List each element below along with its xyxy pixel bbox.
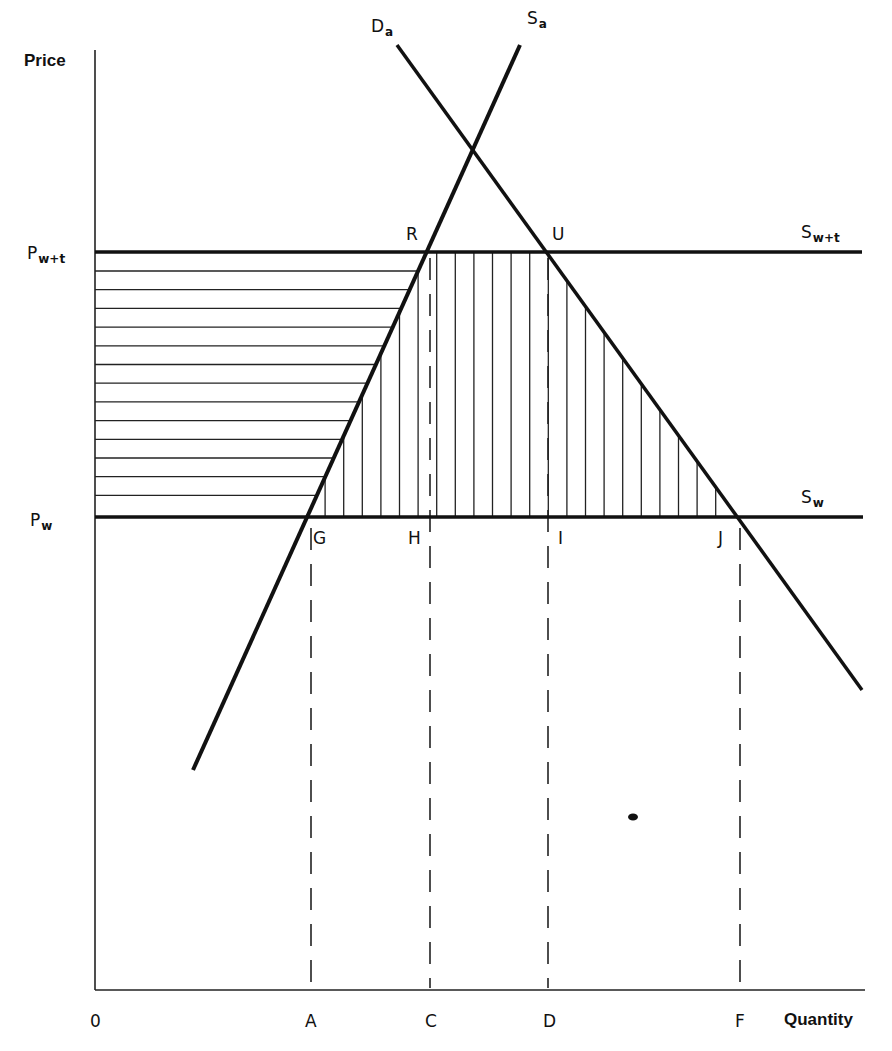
quantity-A-label: A [305, 1013, 317, 1030]
domestic-supply-curve [193, 45, 520, 770]
supply-curve-label: Sa [527, 10, 547, 30]
point-U-label: U [552, 226, 564, 243]
demand-curve-label: Da [371, 18, 393, 38]
print-speck [628, 814, 638, 821]
supply-demand-diagram: Price Quantity 0 Da Sa Sw+t Sw Pw+t Pw R… [0, 0, 892, 1051]
point-J-label: J [718, 530, 723, 547]
vertical-hatching [325, 252, 716, 517]
quantity-C-label: C [425, 1013, 437, 1030]
supply-w-label: Sw [801, 489, 824, 509]
origin-label: 0 [90, 1013, 101, 1030]
point-G-label: G [313, 530, 326, 547]
diagram-canvas [0, 0, 892, 1051]
point-I-label: I [558, 530, 563, 547]
point-H-label: H [408, 530, 421, 547]
quantity-D-label: D [543, 1013, 556, 1030]
point-R-label: R [406, 226, 418, 243]
price-w-plus-t-label: Pw+t [27, 245, 65, 265]
quantity-F-label: F [735, 1013, 745, 1030]
y-axis-title: Price [24, 52, 66, 69]
supply-w-plus-t-label: Sw+t [801, 224, 840, 244]
price-w-label: Pw [30, 512, 52, 532]
x-axis-title: Quantity [784, 1011, 853, 1028]
domestic-demand-curve [397, 45, 862, 690]
